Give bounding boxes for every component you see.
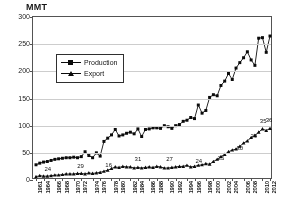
data-point-production [91, 156, 94, 159]
data-point-production [42, 161, 45, 164]
data-point-production [72, 156, 75, 159]
data-point-production [87, 154, 90, 157]
data-point-production [76, 156, 79, 159]
legend-label-production: Production [84, 59, 117, 66]
x-tick-label: 1986 [150, 181, 156, 194]
y-tick-label: 300 [4, 13, 30, 20]
gridline [33, 99, 271, 100]
data-point-production [121, 133, 124, 136]
data-point-production [193, 117, 196, 120]
data-point-production [189, 116, 192, 119]
data-point-production [148, 127, 151, 130]
data-point-production [201, 112, 204, 115]
gridline [33, 126, 271, 127]
data-point-export [211, 160, 215, 163]
data-point-production [53, 158, 56, 161]
x-tick-label: 1972 [82, 181, 88, 194]
x-tick-label: 1964 [45, 181, 51, 194]
data-point-production [61, 157, 64, 160]
legend-label-export: Export [84, 70, 104, 77]
x-tick-label: 1976 [101, 181, 107, 194]
x-tick-label: 1990 [169, 181, 175, 194]
data-point-production [185, 119, 188, 122]
data-point-production [99, 155, 102, 158]
data-point-production [35, 163, 38, 166]
chart-legend: Production Export [56, 54, 124, 83]
x-tick-label: 1970 [75, 181, 81, 194]
data-point-production [57, 157, 60, 160]
data-point-production [125, 132, 128, 135]
data-point-production [238, 61, 241, 64]
x-tick-label: 1992 [177, 181, 183, 194]
data-point-label: 24 [195, 158, 202, 164]
x-tick-label: 1996 [196, 181, 202, 194]
data-point-production [216, 94, 219, 97]
x-tick-label: 1988 [158, 181, 164, 194]
x-tick-label: 1968 [64, 181, 70, 194]
y-tick-mark [30, 153, 33, 154]
data-point-production [265, 51, 268, 54]
data-point-production [129, 131, 132, 134]
data-point-production [204, 109, 207, 112]
x-axis-ticks: 1961196419661968197019721974197619781980… [32, 181, 272, 219]
data-point-label: 24 [45, 166, 52, 172]
export-marker-icon [61, 69, 81, 78]
data-point-production [170, 127, 173, 130]
data-point-production [269, 35, 272, 38]
x-tick-label: 1994 [188, 181, 194, 194]
y-tick-mark [30, 17, 33, 18]
data-point-production [110, 133, 113, 136]
data-point-production [136, 127, 139, 130]
x-tick-label: 1966 [56, 181, 62, 194]
data-point-production [227, 72, 230, 75]
x-tick-label: 1998 [207, 181, 213, 194]
data-point-label: 29 [250, 133, 257, 139]
plot-area [32, 16, 272, 179]
y-tick-label: 250 [4, 40, 30, 47]
data-point-label: 36 [266, 117, 273, 123]
x-tick-label: 2004 [233, 181, 239, 194]
data-point-production [250, 58, 253, 61]
data-point-production [197, 104, 200, 107]
y-tick-label: 150 [4, 94, 30, 101]
y-tick-label: 0 [4, 176, 30, 183]
data-point-label: 25 [218, 155, 225, 161]
data-point-production [242, 56, 245, 59]
y-tick-label: 50 [4, 148, 30, 155]
data-point-production [144, 128, 147, 131]
x-tick-label: 2008 [252, 181, 258, 194]
data-point-production [261, 36, 264, 39]
data-point-production [246, 50, 249, 53]
data-point-production [152, 126, 155, 129]
y-tick-label: 200 [4, 67, 30, 74]
data-point-production [114, 128, 117, 131]
x-tick-label: 2010 [264, 181, 270, 194]
x-tick-label: 2006 [245, 181, 251, 194]
data-point-production [219, 84, 222, 87]
data-point-export [185, 163, 189, 166]
data-point-production [257, 37, 260, 40]
data-point-production [46, 160, 49, 163]
x-tick-label: 1961 [37, 181, 43, 194]
data-point-production [106, 137, 109, 140]
data-point-production [223, 80, 226, 83]
x-tick-label: 1984 [139, 181, 145, 194]
data-point-production [68, 156, 71, 159]
x-tick-label: 2012 [271, 181, 277, 194]
x-tick-label: 2000 [215, 181, 221, 194]
production-marker-icon [61, 58, 81, 67]
gridline [33, 153, 271, 154]
data-point-label: 27 [166, 156, 173, 162]
data-point-production [253, 64, 256, 67]
legend-item-production: Production [61, 57, 117, 68]
data-point-production [102, 140, 105, 143]
x-tick-label: 1978 [113, 181, 119, 194]
data-point-production [133, 132, 136, 135]
x-tick-label: 1974 [94, 181, 100, 194]
data-point-export [268, 126, 272, 129]
y-tick-mark [30, 126, 33, 127]
y-tick-label: 100 [4, 121, 30, 128]
data-point-production [182, 120, 185, 123]
x-tick-label: 1982 [132, 181, 138, 194]
data-point-production [159, 127, 162, 130]
